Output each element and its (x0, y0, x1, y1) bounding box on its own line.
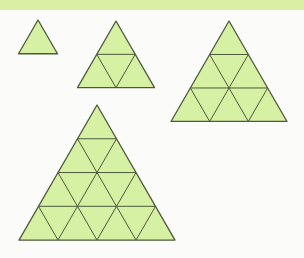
triangle-pattern-diagram (0, 0, 304, 258)
triangle-size-3 (171, 21, 287, 121)
triangle-size-4 (19, 105, 175, 240)
triangle-size-1 (19, 20, 58, 54)
triangle-size-2 (78, 21, 155, 88)
